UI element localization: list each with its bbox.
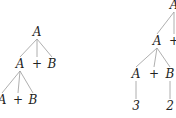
tree-node-plus: + [149,67,159,81]
right-parse-tree-edge [157,48,170,67]
right-parse-tree-edge [136,48,157,67]
tree-node-a: A [15,57,25,71]
tree-node-b: B [28,93,38,107]
tree-node-plus: + [13,93,23,107]
tree-node-b: B [47,57,57,71]
left-parse-tree-edge [20,71,33,93]
tree-node-a: A [32,25,42,39]
tree-node-a: A [131,67,141,81]
tree-node-3: 3 [132,99,140,113]
tree-node-plus: + [169,34,176,48]
tree-node-plus: + [32,57,42,71]
left-parse-tree-edge [37,39,52,57]
tree-edges [2,12,174,99]
tree-node-a: A [0,93,7,107]
tree-node-b: B [165,67,175,81]
tree-node-a: A [169,0,176,12]
left-parse-tree-edge [20,39,37,57]
tree-node-a: A [152,34,162,48]
left-parse-tree-edge [2,71,20,93]
tree-nodes: AA+BA+BAA+A+B32 [0,0,176,113]
parse-tree-diagram: AA+BA+BAA+A+B32 [0,0,176,118]
right-parse-tree-edge [157,12,174,34]
left-parse-tree-edge [18,71,20,93]
right-parse-tree-edge [154,48,157,67]
tree-node-2: 2 [165,99,174,113]
